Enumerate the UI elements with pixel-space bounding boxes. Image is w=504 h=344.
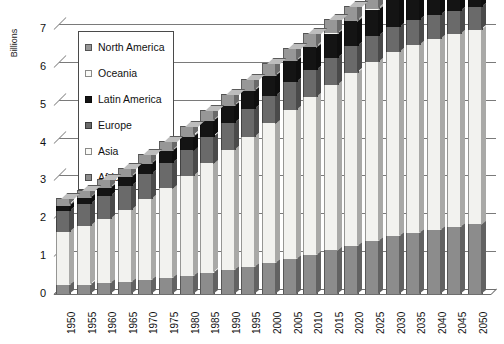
bar-column xyxy=(200,0,213,344)
bar-segment xyxy=(56,285,69,294)
bar-column xyxy=(180,0,193,344)
bar-segment xyxy=(303,255,316,294)
bar-segment xyxy=(344,246,357,294)
bar-segment-side xyxy=(131,182,136,210)
bar-column xyxy=(427,0,440,344)
bar-segment-side xyxy=(378,32,383,62)
bar-segment xyxy=(262,96,275,124)
bar-segment-side xyxy=(172,184,177,278)
bar-segment xyxy=(365,62,378,241)
bar-segment xyxy=(138,163,151,174)
bar-segment xyxy=(138,280,151,294)
bar-segment-side xyxy=(296,106,301,259)
bar-segment-side xyxy=(419,229,424,294)
bar-segment-side xyxy=(110,192,115,219)
bar-segment-side xyxy=(316,43,321,70)
bar-column xyxy=(138,0,151,344)
bar-segment xyxy=(344,46,357,72)
bar-segment-side xyxy=(419,41,424,233)
bar-segment xyxy=(77,204,90,226)
bar-segment xyxy=(324,58,337,85)
bar-segment xyxy=(406,20,419,45)
bar-segment-side xyxy=(296,78,301,110)
bar-segment xyxy=(77,226,90,284)
bar-segment xyxy=(221,270,234,294)
bar-segment-side xyxy=(213,159,218,272)
bar-segment-side xyxy=(419,16,424,45)
bar-segment xyxy=(200,163,213,272)
bar-segment-side xyxy=(151,195,156,280)
bar-segment xyxy=(97,283,110,294)
bar-segment-side xyxy=(481,4,486,30)
bar-segment-side xyxy=(110,215,115,283)
bar-segment-side xyxy=(440,11,445,39)
bar-segment-side xyxy=(254,105,259,137)
bar-segment-side xyxy=(234,119,239,150)
bar-segment-side xyxy=(234,146,239,270)
bar-segment-side xyxy=(357,69,362,246)
y-axis-tick-label: 1 xyxy=(30,249,46,261)
bar-segment xyxy=(200,273,213,294)
y-axis-title: Billions xyxy=(9,13,19,73)
bar-segment xyxy=(97,219,110,283)
bar-segment xyxy=(159,151,172,163)
bar-segment xyxy=(344,73,357,246)
bar-segment xyxy=(159,163,172,189)
bar-segment xyxy=(77,197,90,204)
bar-segment xyxy=(427,15,440,39)
bar-column xyxy=(283,0,296,344)
bar-segment-side xyxy=(378,237,383,294)
y-axis-tick-label: 3 xyxy=(30,173,46,185)
bar-segment xyxy=(118,282,131,294)
bar-segment xyxy=(138,154,151,163)
bar-segment xyxy=(406,45,419,233)
bar-segment-side xyxy=(357,242,362,294)
bar-segment xyxy=(344,6,357,20)
bar-segment xyxy=(262,123,275,263)
bar-segment xyxy=(427,230,440,294)
bar-segment xyxy=(427,0,440,15)
bar-segment-side xyxy=(275,259,280,294)
bar-segment xyxy=(303,97,316,255)
bar-segment xyxy=(200,137,213,164)
bar-segment-side xyxy=(399,0,404,27)
bar-segment xyxy=(427,39,440,230)
bar-segment-side xyxy=(357,42,362,72)
bar-segment-side xyxy=(378,58,383,241)
bar-segment xyxy=(365,36,378,62)
bar-column xyxy=(221,0,234,344)
bar-column xyxy=(159,0,172,344)
bar-column xyxy=(118,0,131,344)
bar-segment xyxy=(324,34,337,58)
bar-segment-side xyxy=(399,23,404,52)
bar-segment xyxy=(468,224,481,294)
bar-segment xyxy=(138,174,151,199)
bar-segment xyxy=(447,11,460,34)
bar-segment-side xyxy=(172,159,177,189)
bar-segment-side xyxy=(337,247,342,294)
bar-column xyxy=(324,0,337,344)
bar-segment-side xyxy=(254,263,259,294)
bar-segment-side xyxy=(213,133,218,164)
bar-segment-side xyxy=(357,17,362,46)
y-axis-tick-label: 4 xyxy=(30,136,46,148)
bar-segment xyxy=(468,0,481,7)
bar-segment xyxy=(159,278,172,294)
bar-segment-side xyxy=(254,133,259,267)
bar-segment-side xyxy=(316,93,321,255)
bar-segment-side xyxy=(131,206,136,282)
bar-segment-side xyxy=(460,223,465,294)
bar-segment xyxy=(180,137,193,151)
y-axis-tick-label: 2 xyxy=(30,211,46,223)
bar-segment-side xyxy=(316,251,321,294)
bar-segment xyxy=(241,109,254,137)
bar-segment-side xyxy=(296,255,301,294)
bar-segment xyxy=(241,91,254,109)
bar-segment xyxy=(118,177,131,186)
bar-segment xyxy=(241,267,254,294)
bar-segment xyxy=(56,198,69,204)
bar-segment-side xyxy=(275,119,280,263)
bar-segment xyxy=(241,137,254,267)
bar-segment xyxy=(138,199,151,280)
bar-segment xyxy=(386,27,399,52)
